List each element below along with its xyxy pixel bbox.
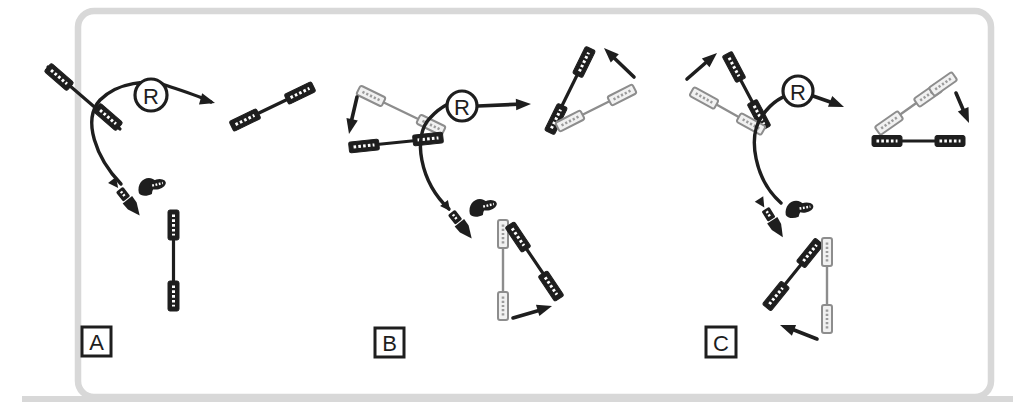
strand-cap (413, 132, 444, 146)
figure-frame (78, 11, 991, 397)
substrate-strand-dark (349, 132, 444, 153)
annealing-strand-dark (505, 221, 564, 301)
strand-cap (44, 63, 74, 91)
panel-a: R A (44, 63, 316, 356)
ribozyme-label: R (790, 80, 806, 105)
template-strand-gray (356, 85, 446, 135)
svg-text:C: C (713, 331, 729, 356)
product-arrow (478, 98, 531, 110)
approach-arrow (778, 320, 817, 339)
strand-cap (498, 220, 508, 248)
strand-cap (822, 238, 832, 266)
strand-cap (93, 103, 123, 131)
reaction-arrowhead-icon (199, 93, 217, 108)
product-strand (229, 81, 316, 131)
approach-arrow (956, 93, 974, 125)
strand-cap (872, 136, 902, 147)
strand-cap (538, 270, 564, 301)
strand-cap (935, 136, 965, 147)
ribozyme-node: R (783, 76, 813, 106)
strand-cap (822, 305, 832, 333)
strand-cap (762, 281, 789, 311)
leaving-group-dart-icon (754, 196, 788, 241)
dissociation-arrow (343, 97, 357, 135)
strand-cap (607, 84, 636, 106)
strand-cap (498, 292, 508, 320)
strand-cap (168, 281, 179, 311)
leaving-group-dart-icon (107, 176, 144, 219)
strand-cap (572, 46, 595, 78)
panel-label-a: A (82, 327, 111, 356)
strand-cap (349, 139, 380, 153)
template-strand-gray (822, 238, 832, 333)
approach-arrow (687, 49, 721, 79)
strand-cap (356, 85, 386, 106)
panel-c: R (687, 49, 974, 357)
strand-cap (284, 81, 316, 104)
strand-cap (168, 210, 179, 240)
strand-cap (229, 108, 261, 131)
separation-arrow (600, 44, 634, 77)
panel-b: R (343, 44, 636, 357)
released-fragment-blob-icon (785, 198, 816, 221)
panel-label-b: B (375, 328, 404, 357)
released-fragment-blob-icon (138, 176, 168, 198)
ribozyme-label: R (143, 84, 159, 109)
strand-cap (875, 111, 904, 135)
strand-cap (929, 72, 958, 96)
ribozyme-node: R (135, 79, 167, 111)
template-strand-dark (872, 136, 965, 147)
ribozyme-node: R (447, 91, 477, 121)
product-strand-gray (875, 72, 958, 135)
substrate-duplex-strand (44, 63, 123, 131)
free-substrate-strand (168, 210, 179, 311)
strand-cap (722, 51, 746, 83)
panel-label-c: C (706, 327, 736, 357)
figure-canvas: R A (0, 0, 1013, 405)
approach-arrow (513, 300, 554, 318)
svg-text:B: B (382, 331, 397, 356)
svg-text:A: A (89, 330, 104, 355)
ribozyme-label: R (454, 95, 470, 120)
template-strand-gray (498, 220, 508, 320)
annealing-strand-dark (762, 238, 823, 311)
strand-cap (689, 87, 718, 109)
released-fragment-blob-icon (469, 197, 499, 219)
strand-cap (796, 238, 823, 268)
product-arrow (813, 96, 846, 112)
